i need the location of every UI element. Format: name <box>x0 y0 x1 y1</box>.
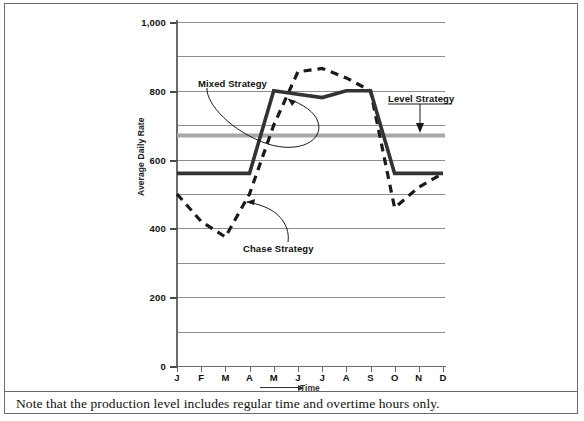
x-label-dec: D <box>433 372 453 383</box>
y-tick-800 <box>170 91 177 93</box>
y-tick-label-200: 200 <box>126 292 166 303</box>
chart-area: 1,000 800 600 400 200 0 J F M A M J J A … <box>0 0 584 391</box>
y-tick-400 <box>170 228 177 230</box>
caption-divider <box>4 391 578 392</box>
figure-caption: Note that the production level includes … <box>16 396 566 412</box>
y-axis-title: Average Daily Rate <box>136 118 146 197</box>
x-label-apr: A <box>240 372 260 383</box>
annotation-chase-strategy: Chase Strategy <box>243 243 314 254</box>
gridline-400 <box>177 228 445 229</box>
y-tick-600 <box>170 160 177 162</box>
x-label-oct: O <box>385 372 405 383</box>
x-label-sep: S <box>361 372 381 383</box>
y-tick-1000 <box>170 22 177 24</box>
x-label-jan: J <box>167 372 187 383</box>
y-tick-label-800: 800 <box>126 85 166 96</box>
gridline-1000 <box>177 22 445 23</box>
plot-area <box>177 22 445 366</box>
x-label-aug: A <box>336 372 356 383</box>
y-tick-label-600: 600 <box>126 154 166 165</box>
gridline-700 <box>177 125 445 126</box>
gridline-100 <box>177 332 445 333</box>
y-tick-label-1000: 1,000 <box>126 17 166 28</box>
gridline-900 <box>177 56 445 57</box>
y-tick-0 <box>170 366 177 368</box>
annotation-mixed-strategy: Mixed Strategy <box>198 78 267 89</box>
y-tick-200 <box>170 297 177 299</box>
y-axis-line <box>176 20 178 368</box>
x-label-jun: J <box>288 372 308 383</box>
annotation-level-strategy: Level Strategy <box>388 93 454 104</box>
x-label-mar: M <box>215 372 235 383</box>
gridline-200 <box>177 297 445 298</box>
x-label-feb: F <box>191 372 211 383</box>
x-label-nov: N <box>409 372 429 383</box>
gridline-600 <box>177 160 445 161</box>
x-label-jul: J <box>312 372 332 383</box>
time-arrow-icon <box>260 387 298 388</box>
gridline-300 <box>177 263 445 264</box>
gridline-800 <box>177 91 445 92</box>
figure-page: 1,000 800 600 400 200 0 J F M A M J J A … <box>0 0 584 421</box>
gridline-500 <box>177 194 445 195</box>
x-label-may: M <box>264 372 284 383</box>
y-tick-label-400: 400 <box>126 223 166 234</box>
x-axis-line <box>176 366 446 367</box>
y-tick-label-0: 0 <box>126 361 166 372</box>
